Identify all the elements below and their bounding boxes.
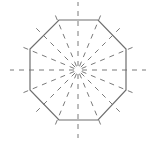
symmetry-line (33, 73, 75, 115)
symmetry-line (80, 74, 103, 129)
symmetry-line (82, 72, 137, 95)
symmetry-line (19, 72, 74, 95)
symmetry-line (80, 11, 103, 66)
symmetry-line (54, 74, 77, 129)
symmetry-line (81, 73, 123, 115)
symmetry-line (81, 25, 123, 67)
symmetry-line (54, 11, 77, 66)
octagon-symmetry-diagram (0, 0, 148, 145)
symmetry-line (19, 46, 74, 69)
symmetry-line (82, 46, 137, 69)
symmetry-line (33, 25, 75, 67)
